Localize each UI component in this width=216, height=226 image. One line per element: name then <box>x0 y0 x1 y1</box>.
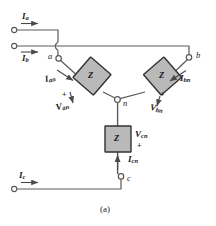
terminal-label-b: b <box>196 51 200 60</box>
terminal-c-dot <box>118 174 123 179</box>
terminal-b-dot <box>186 55 191 60</box>
voltage-arrow-van <box>70 92 73 103</box>
impedance-label-a: Z <box>88 71 93 80</box>
polarity-plus-vcn: + <box>137 142 142 150</box>
neutral-node-n-dot <box>115 97 121 103</box>
figure-caption: (a) <box>100 205 110 214</box>
circuit-schematic-svg <box>0 0 216 226</box>
terminal-label-a: a <box>48 52 52 61</box>
current-arrow-ian <box>57 70 73 81</box>
terminal-ia-dot <box>12 27 17 32</box>
current-label-ic: Ic <box>19 171 25 181</box>
terminal-ib-dot <box>12 43 17 48</box>
terminal-ic-dot <box>12 186 17 191</box>
current-label-ibn: Ibn <box>180 74 190 84</box>
terminal-label-c: c <box>127 174 131 183</box>
current-label-ib: Ib <box>22 54 29 64</box>
current-label-icn: Icn <box>128 155 138 165</box>
voltage-label-vbn: Vbn <box>149 103 163 114</box>
voltage-label-vcn: Vcn <box>135 130 148 140</box>
terminal-a-dot <box>56 56 61 61</box>
circuit-diagram-figure: Z Z Z Ia Ib Ic Ian Ibn Icn Van + Vbn + V… <box>0 0 216 226</box>
polarity-plus-vbn: + <box>160 91 165 99</box>
impedance-label-c: Z <box>114 134 119 143</box>
polarity-plus-van: + <box>62 91 67 99</box>
impedance-label-b: Z <box>159 71 164 80</box>
terminal-label-n: n <box>123 99 127 108</box>
current-label-ia: Ia <box>22 12 29 22</box>
line-b-conductor <box>17 46 189 55</box>
line-c-conductor <box>17 179 121 189</box>
terminal-dots <box>12 27 192 191</box>
